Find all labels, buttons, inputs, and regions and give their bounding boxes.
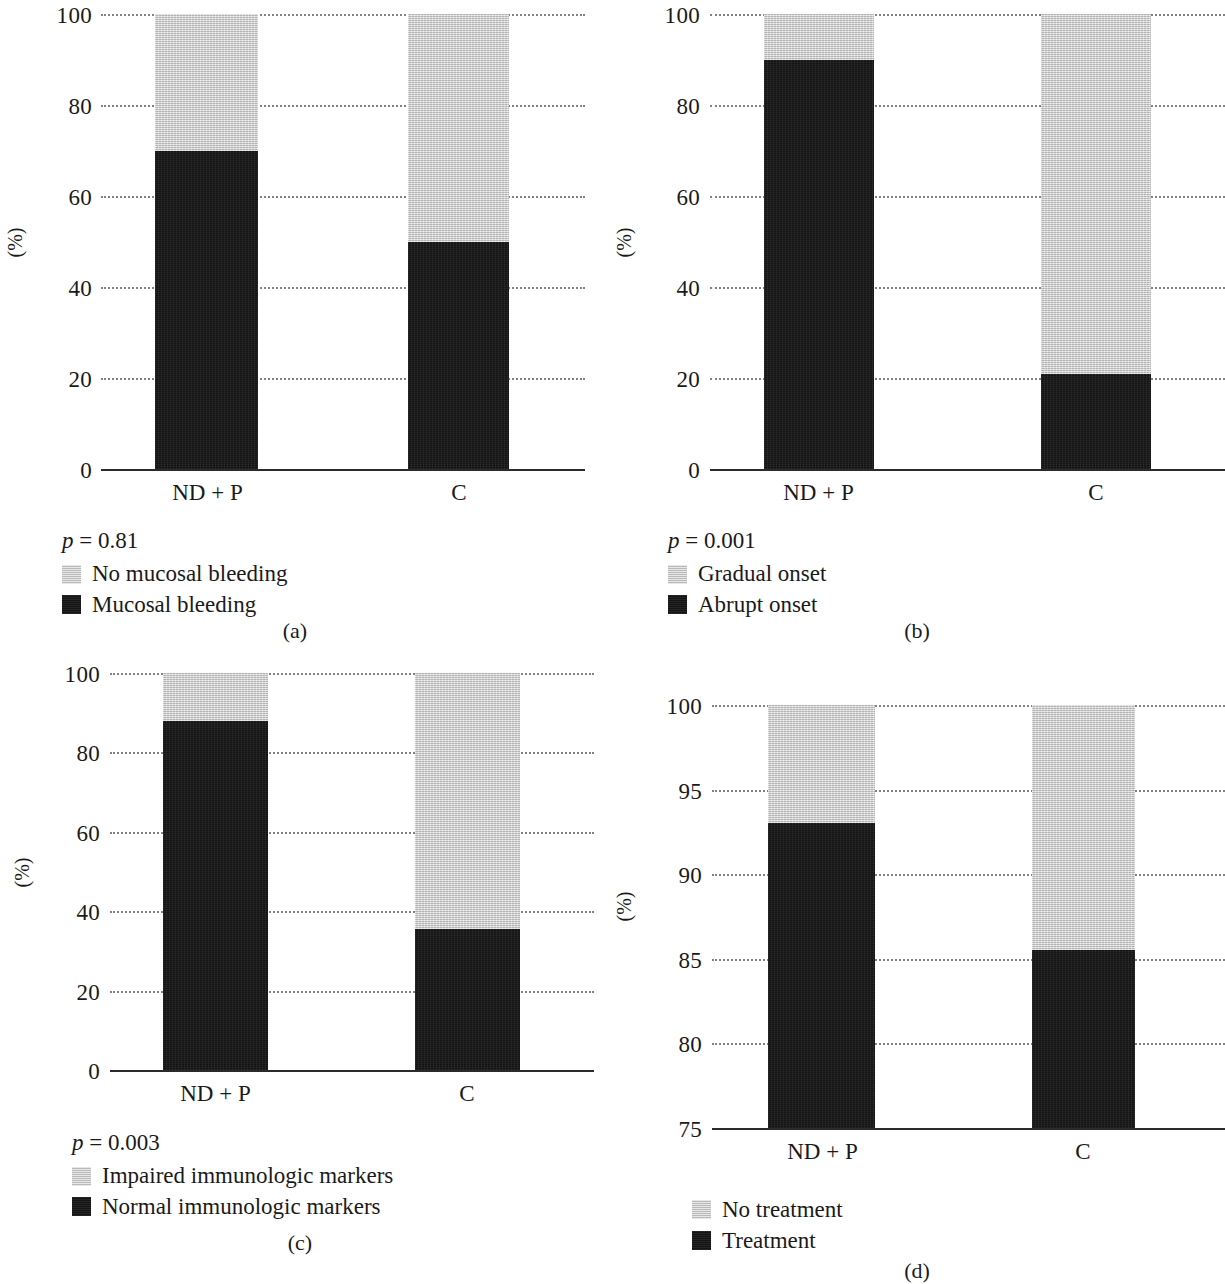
legend-label: Gradual onset — [698, 560, 826, 588]
xtick-d-1: C — [1024, 1140, 1142, 1163]
bar-segment-light — [1041, 14, 1151, 374]
ytick-d-5: 75 — [632, 1118, 702, 1141]
ytick-b-2: 60 — [630, 186, 700, 209]
legend-item: Mucosal bleeding — [62, 591, 287, 619]
ytick-d-3: 85 — [632, 949, 702, 972]
x-axis-c — [110, 1070, 594, 1072]
bar-segment-dark — [163, 721, 268, 1070]
bar-segment-light — [764, 14, 874, 60]
y-axis-label-b: (%) — [613, 213, 636, 273]
p-value-a: p = 0.81 — [62, 528, 287, 554]
ytick-d-4: 80 — [632, 1033, 702, 1056]
legend-swatch-dark-icon — [62, 595, 81, 614]
bar-segment-dark — [768, 823, 875, 1128]
xtick-d-0: ND + P — [760, 1140, 885, 1163]
ytick-d-0: 100 — [632, 695, 702, 718]
ytick-a-3: 40 — [22, 277, 92, 300]
bar-segment-light — [768, 705, 875, 823]
ytick-c-1: 80 — [30, 742, 100, 765]
p-symbol: p — [668, 528, 680, 553]
p-symbol: p — [62, 528, 74, 553]
bar-c-ndp — [163, 673, 268, 1070]
bar-segment-dark — [1032, 950, 1135, 1128]
bar-segment-light — [408, 14, 509, 242]
legend-swatch-light-icon — [62, 565, 81, 584]
bar-b-ndp — [764, 14, 874, 469]
ytick-c-0: 100 — [30, 663, 100, 686]
legend-label: Mucosal bleeding — [92, 591, 256, 619]
legend-label: No mucosal bleeding — [92, 560, 287, 588]
p-value-text: = 0.001 — [685, 528, 755, 553]
legend-item: No mucosal bleeding — [62, 560, 287, 588]
y-axis-label-a: (%) — [4, 213, 27, 273]
p-value-c: p = 0.003 — [72, 1130, 393, 1156]
xtick-a-0: ND + P — [145, 481, 270, 504]
plot-area-a: 100 80 60 40 20 0 (%) ND + P C — [0, 0, 612, 500]
p-value-text: = 0.81 — [79, 528, 138, 553]
p-value-text: = 0.003 — [89, 1130, 159, 1155]
x-axis-b — [710, 469, 1225, 471]
p-value-b: p = 0.001 — [668, 528, 826, 554]
legend-d: No treatment Treatment — [692, 1193, 843, 1254]
bar-a-ndp — [155, 14, 258, 469]
bar-segment-dark — [415, 929, 520, 1070]
ytick-a-4: 20 — [22, 368, 92, 391]
legend-label: Impaired immunologic markers — [102, 1162, 393, 1190]
legend-swatch-dark-icon — [72, 1197, 91, 1216]
legend-swatch-light-icon — [692, 1200, 711, 1219]
bar-segment-light — [155, 14, 258, 151]
bar-d-c — [1032, 705, 1135, 1128]
bar-segment-dark — [1041, 374, 1151, 470]
legend-label: Treatment — [722, 1227, 816, 1255]
xtick-c-0: ND + P — [153, 1082, 278, 1105]
bar-d-ndp — [768, 705, 875, 1128]
legend-swatch-light-icon — [668, 565, 687, 584]
ytick-a-0: 100 — [22, 4, 92, 27]
bar-segment-dark — [408, 242, 509, 470]
y-axis-label-d: (%) — [613, 877, 636, 937]
legend-item: Normal immunologic markers — [72, 1193, 393, 1221]
panel-d: 100 95 90 85 80 75 (%) ND + P C No — [612, 640, 1225, 1275]
p-symbol: p — [72, 1130, 84, 1155]
legend-item: Abrupt onset — [668, 591, 826, 619]
bar-segment-light — [163, 673, 268, 721]
bar-segment-light — [415, 673, 520, 929]
legend-label: No treatment — [722, 1196, 843, 1224]
legend-swatch-dark-icon — [692, 1231, 711, 1250]
legend-label: Abrupt onset — [698, 591, 817, 619]
panel-b: 100 80 60 40 20 0 (%) ND + P C p = 0.001 — [612, 0, 1225, 640]
panel-c: 100 80 60 40 20 0 (%) ND + P C p = 0.003 — [0, 640, 612, 1275]
xtick-c-1: C — [408, 1082, 526, 1105]
ytick-a-5: 0 — [22, 459, 92, 482]
ytick-c-2: 60 — [30, 822, 100, 845]
ytick-c-3: 40 — [30, 901, 100, 924]
xtick-a-1: C — [400, 481, 518, 504]
panel-caption-c: (c) — [245, 1230, 355, 1256]
legend-item: Impaired immunologic markers — [72, 1162, 393, 1190]
legend-item: Gradual onset — [668, 560, 826, 588]
ytick-b-3: 40 — [630, 277, 700, 300]
legend-a: p = 0.81 No mucosal bleeding Mucosal ble… — [62, 528, 287, 619]
legend-label: Normal immunologic markers — [102, 1193, 381, 1221]
bar-a-c — [408, 14, 509, 469]
bar-b-c — [1041, 14, 1151, 469]
plot-area-b: 100 80 60 40 20 0 (%) ND + P C — [612, 0, 1225, 500]
x-axis-d — [712, 1128, 1225, 1130]
bar-segment-dark — [155, 151, 258, 470]
ytick-b-0: 100 — [630, 4, 700, 27]
legend-item: No treatment — [692, 1196, 843, 1224]
panel-caption-d: (d) — [862, 1258, 972, 1284]
bar-segment-light — [1032, 705, 1135, 950]
ytick-d-2: 90 — [632, 864, 702, 887]
xtick-b-1: C — [1037, 481, 1155, 504]
ytick-a-2: 60 — [22, 186, 92, 209]
legend-item: Treatment — [692, 1227, 843, 1255]
ytick-c-5: 0 — [30, 1060, 100, 1083]
y-axis-label-c: (%) — [11, 843, 34, 903]
legend-b: p = 0.001 Gradual onset Abrupt onset — [668, 528, 826, 619]
plot-area-c: 100 80 60 40 20 0 (%) ND + P C — [0, 640, 612, 1090]
plot-area-d: 100 95 90 85 80 75 (%) ND + P C — [612, 640, 1225, 1150]
panel-a: 100 80 60 40 20 0 (%) ND + P C p — [0, 0, 612, 640]
x-axis-a — [101, 469, 585, 471]
